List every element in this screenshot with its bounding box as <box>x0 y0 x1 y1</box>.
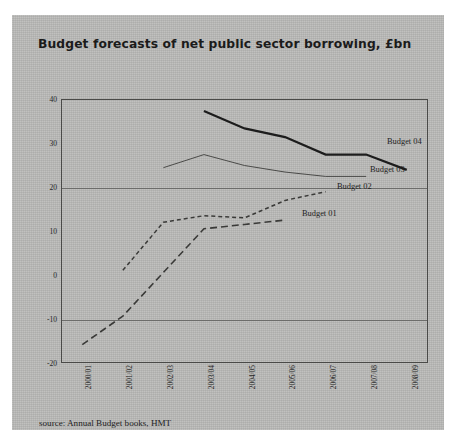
series-label-budget02: Budget 02 <box>337 182 372 191</box>
series-line-budget-01 <box>82 220 285 344</box>
x-axis-tick: 2004/05 <box>248 365 257 389</box>
series-line-budget-04 <box>204 111 407 170</box>
y-axis-tick: -20 <box>47 359 57 368</box>
y-axis-tick: 10 <box>49 227 57 236</box>
scanned-page: Budget forecasts of net public sector bo… <box>0 0 459 445</box>
y-axis-tick: 20 <box>49 183 57 192</box>
x-axis-tick: 2003/04 <box>207 365 216 389</box>
x-axis-tick: 2008/09 <box>411 365 420 389</box>
x-axis-tick: 2002/03 <box>166 365 175 389</box>
series-lines <box>62 100 427 362</box>
series-line-budget-03 <box>163 155 366 177</box>
series-line-budget-02 <box>123 192 326 271</box>
x-axis-tick: 2005/06 <box>288 365 297 389</box>
page-title: Budget forecasts of net public sector bo… <box>38 37 411 51</box>
plot-area <box>61 99 428 363</box>
source-note: source: Annual Budget books, HMT <box>39 418 171 428</box>
y-axis-tick: 40 <box>49 95 57 104</box>
x-axis-tick: 2001/02 <box>125 365 134 389</box>
y-axis-tick: 30 <box>49 139 57 148</box>
x-axis-tick: 2007/08 <box>370 365 379 389</box>
x-axis-tick: 2006/07 <box>329 365 338 389</box>
y-axis-tick: 0 <box>53 271 57 280</box>
y-axis-tick-labels: 403020100-10-20 <box>26 99 57 363</box>
x-axis-tick-labels: 2000/012001/022002/032003/042004/052005/… <box>61 365 428 420</box>
y-axis-tick: -10 <box>47 315 57 324</box>
chart-panel: Budget forecasts of net public sector bo… <box>12 15 444 430</box>
series-label-budget04: Budget 04 <box>387 137 422 146</box>
series-label-budget01: Budget 01 <box>302 209 337 218</box>
x-axis-tick: 2000/01 <box>84 365 93 389</box>
series-label-budget03: Budget 03 <box>370 165 405 174</box>
